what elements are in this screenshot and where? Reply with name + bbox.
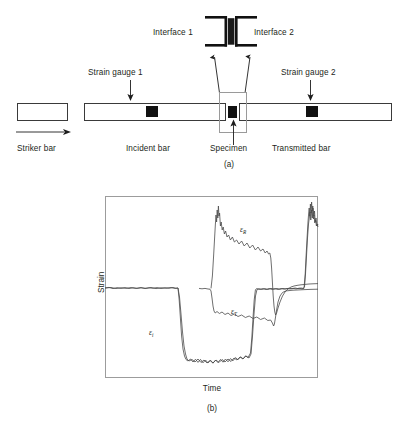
transmitted-curve-label: εT [230,304,250,318]
epsilon-r-glyph: εR [240,225,247,235]
strain-gauge-2-arrow [306,80,315,102]
transmitted-pulse-full [199,288,318,326]
specimen-inset-diagram [205,14,257,54]
striker-bar-label: Striker bar [17,144,56,153]
strain-gauge-1-label: Strain gauge 1 [88,68,143,77]
strain-time-right-traces [105,196,318,378]
striker-direction-arrow [16,127,72,137]
plot-x-axis-label: Time [186,384,238,393]
striker-bar [17,103,68,121]
specimen-arrow [229,118,238,146]
incident-curve-label: εi [148,325,168,339]
figure-root: Interface 1 Interface 2 Strain gauge 1 S… [0,0,409,426]
incident-bar-label: Incident bar [126,144,170,153]
panel-a: Interface 1 Interface 2 Strain gauge 1 S… [0,0,409,185]
reflected-curve-label: εR [239,222,259,236]
epsilon-t-glyph: εT [231,307,238,317]
strain-gauge-2-marker [306,106,318,117]
reflected-pulse-full [211,206,318,315]
strain-gauge-2-label: Strain gauge 2 [281,68,336,77]
specimen-leader-lines [205,53,265,95]
epsilon-i-glyph: εi [149,328,154,338]
specimen-label: Specimen [210,144,247,153]
strain-gauge-1-arrow [126,80,135,102]
interface-1-label: Interface 1 [153,28,193,37]
transmitted-bar-label: Transmitted bar [272,144,331,153]
panel-b-letter: (b) [192,404,232,413]
panel-a-letter: (a) [210,160,248,169]
panel-b: Strain εi [0,185,409,426]
strain-gauge-1-marker [146,106,158,117]
interface-2-label: Interface 2 [254,28,294,37]
